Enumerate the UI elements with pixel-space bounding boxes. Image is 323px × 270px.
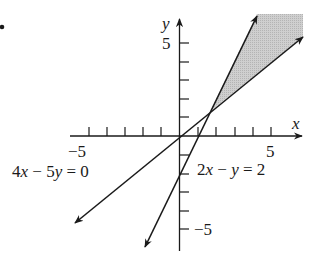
line-4x-minus-5y-eq-0 <box>75 37 303 223</box>
y-tick-label-5: 5 <box>162 34 171 53</box>
y-tick-label-neg5: −5 <box>194 220 212 239</box>
x-tick-label-neg5: −5 <box>68 142 86 161</box>
equation-label-4x-5y: 4x − 5y = 0 <box>12 162 89 181</box>
equation-label-2x-y: 2x − y = 2 <box>197 160 265 179</box>
graph: y x 5 −5 −5 5 4x − 5y = 0 2x − y = 2 <box>0 0 323 270</box>
problem-bullet <box>0 25 4 30</box>
x-tick-label-5: 5 <box>266 142 275 161</box>
shaded-feasible-region <box>210 14 303 111</box>
x-axis-label: x <box>291 114 300 133</box>
y-axis-label: y <box>160 14 170 33</box>
